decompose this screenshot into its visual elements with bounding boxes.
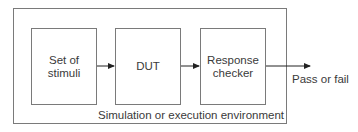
environment-label: Simulation or execution environment bbox=[98, 109, 284, 121]
output-label: Pass or fail bbox=[292, 73, 349, 85]
